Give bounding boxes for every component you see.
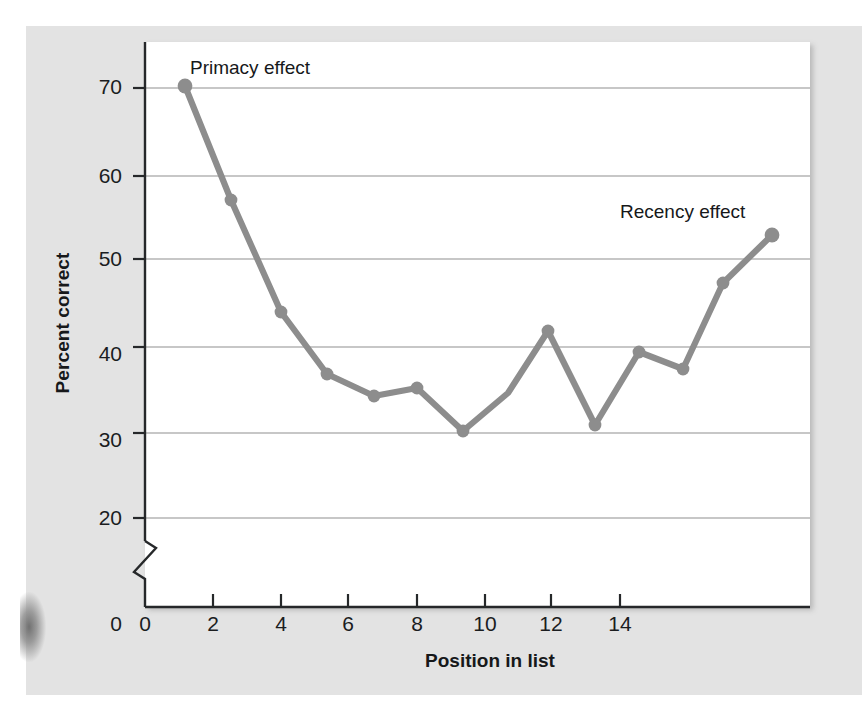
data-point-7 bbox=[457, 425, 470, 438]
data-markers bbox=[178, 79, 780, 438]
y-tick-label-0: 0 bbox=[62, 612, 122, 636]
y-tick-label-70: 70 bbox=[62, 75, 122, 99]
x-tick-label-6: 6 bbox=[323, 612, 373, 636]
x-tick-label-12: 12 bbox=[526, 612, 576, 636]
data-point-4 bbox=[321, 368, 334, 381]
figure-root: 70 60 50 40 30 20 0 0 2 4 6 8 10 12 14 P… bbox=[0, 0, 862, 714]
data-point-12 bbox=[677, 363, 690, 376]
x-tick-label-10: 10 bbox=[460, 612, 510, 636]
y-tick-label-20: 20 bbox=[62, 506, 122, 530]
gridlines bbox=[145, 88, 810, 518]
data-point-1 bbox=[178, 79, 193, 94]
data-point-11 bbox=[633, 346, 646, 359]
data-point-14 bbox=[765, 228, 780, 243]
page-edge-smudge bbox=[20, 592, 46, 662]
x-tick-label-14: 14 bbox=[595, 612, 645, 636]
plot-area: Primacy effect Recency effect bbox=[145, 42, 810, 607]
data-point-6 bbox=[411, 382, 424, 395]
data-point-3 bbox=[275, 306, 288, 319]
plot-svg bbox=[145, 42, 810, 607]
x-axis-title: Position in list bbox=[240, 650, 740, 672]
y-tick-label-60: 60 bbox=[62, 164, 122, 188]
data-point-5 bbox=[368, 390, 381, 403]
x-tick-label-4: 4 bbox=[256, 612, 306, 636]
data-point-9 bbox=[542, 325, 555, 338]
data-point-13 bbox=[717, 277, 730, 290]
x-tick-label-2: 2 bbox=[188, 612, 238, 636]
data-point-10 bbox=[589, 419, 602, 432]
x-tick-label-8: 8 bbox=[392, 612, 442, 636]
y-axis-title: Percent correct bbox=[52, 213, 74, 433]
x-tick-label-0: 0 bbox=[120, 612, 170, 636]
data-point-2 bbox=[225, 194, 238, 207]
